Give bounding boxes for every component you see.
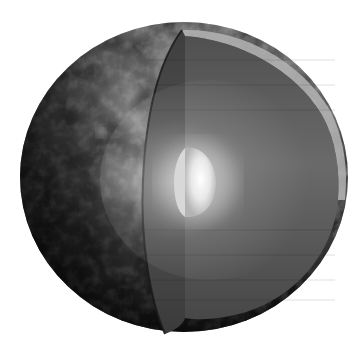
planet-svg — [0, 0, 364, 353]
planet-core — [160, 142, 236, 222]
planet-cutaway-illustration — [0, 0, 364, 353]
